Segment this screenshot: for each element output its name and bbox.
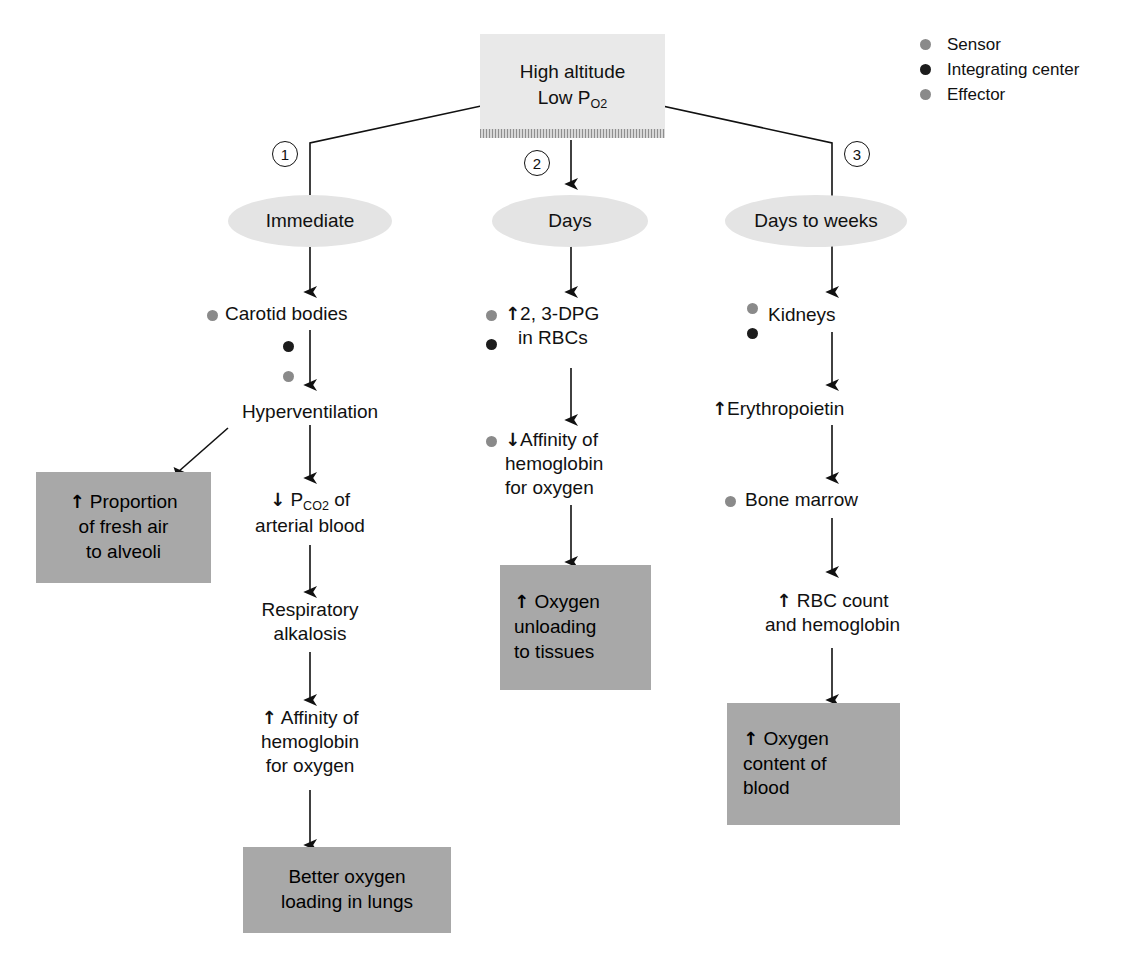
node-pco2-arterial-blood: ↓ PCO2 of arterial blood — [205, 488, 415, 538]
stimulus-po2-sub-o: O — [591, 97, 601, 111]
legend-label-sensor: Sensor — [947, 35, 1001, 55]
node-pco2-sub-2: 2 — [322, 499, 329, 513]
node-dpg-in-rbcs: ↑2, 3-DPG in RBCs — [505, 302, 665, 350]
node-dpg-text-1: 2, 3-DPG — [520, 303, 599, 324]
up-arrow-icon: ↑ — [712, 398, 727, 419]
outcome-unload-line-3: to tissues — [514, 640, 594, 665]
timing-label-days-to-weeks: Days to weeks — [754, 210, 878, 232]
up-arrow-icon: ↑ — [505, 303, 520, 324]
sensor-dot-carotid-icon — [207, 310, 218, 321]
node-erythropoietin: ↑Erythropoietin — [712, 397, 942, 421]
outcome-better-line-1: Better oxygen — [288, 865, 405, 890]
legend: Sensor Integrating center Effector — [920, 32, 1079, 107]
timing-oval-days: Days — [492, 195, 648, 247]
node-affinity-dn-line-1: ↓Affinity of — [505, 428, 670, 452]
stimulus-low-po2-prefix: Low P — [538, 87, 591, 108]
step-number-2-label: 2 — [533, 155, 541, 172]
down-arrow-icon: ↓ — [270, 489, 285, 510]
node-bone-marrow: Bone marrow — [745, 488, 945, 512]
node-label-erythropoietin: Erythropoietin — [727, 398, 844, 419]
node-pco2-sub-co: CO — [303, 499, 322, 513]
node-label-bone-marrow: Bone marrow — [745, 489, 858, 510]
outcome-unload-line-1: ↑ Oxygen — [514, 590, 600, 615]
step-number-3-label: 3 — [853, 146, 861, 163]
node-dpg-line-1: ↑2, 3-DPG — [505, 302, 665, 326]
step-number-3: 3 — [844, 141, 870, 167]
timing-label-days: Days — [548, 210, 591, 232]
outcome-proportion-line-2: of fresh air — [79, 515, 169, 540]
outcome-unload-line-2: unloading — [514, 615, 596, 640]
stimulus-line-2: Low PO2 — [538, 86, 608, 112]
node-pco2-line-1: ↓ PCO2 of — [205, 488, 415, 514]
stimulus-box: High altitude Low PO2 — [480, 34, 665, 138]
node-pco2-line-2: arterial blood — [205, 514, 415, 538]
node-rbc-count-hemoglobin: ↑ RBC count and hemoglobin — [715, 589, 950, 637]
outcome-content-line-1: ↑ Oxygen — [743, 727, 829, 752]
up-arrow-icon: ↑ — [514, 591, 529, 612]
legend-label-effector: Effector — [947, 85, 1005, 105]
outcome-proportion-line-3: to alveoli — [86, 540, 161, 565]
node-affinity-dn-line-2: hemoglobin — [505, 452, 670, 476]
up-arrow-icon: ↑ — [261, 707, 276, 728]
node-pco2-p: P — [290, 489, 303, 510]
outcome-unload-text-1: Oxygen — [534, 591, 599, 612]
node-affinity-hemoglobin-increase: ↑ Affinity of hemoglobin for oxygen — [205, 706, 415, 777]
outcome-content-line-3: blood — [743, 776, 790, 801]
outcome-content-text-1: Oxygen — [763, 728, 828, 749]
node-label-hyperventilation: Hyperventilation — [242, 401, 378, 422]
sensor-dot-dpg-icon — [486, 310, 497, 321]
node-pco2-of: of — [329, 489, 350, 510]
node-affinity-hemoglobin-decrease: ↓Affinity of hemoglobin for oxygen — [505, 428, 670, 499]
stimulus-hatch-border — [480, 129, 665, 138]
node-affinity-up-line-3: for oxygen — [205, 754, 415, 778]
up-arrow-icon: ↑ — [743, 728, 758, 749]
down-arrow-icon: ↓ — [505, 429, 520, 450]
node-affinity-dn-line-3: for oxygen — [505, 476, 670, 500]
node-respiratory-alkalosis: Respiratory alkalosis — [205, 598, 415, 646]
node-rbc-line-2: and hemoglobin — [715, 613, 950, 637]
outcome-better-line-2: loading in lungs — [281, 890, 413, 915]
step-number-2: 2 — [524, 150, 550, 176]
legend-item-sensor: Sensor — [920, 32, 1079, 57]
timing-label-immediate: Immediate — [266, 210, 355, 232]
diagram-canvas: Sensor Integrating center Effector High … — [0, 0, 1123, 969]
node-affinity-up-text-1: Affinity of — [281, 707, 359, 728]
outcome-box-better-oxygen-loading: Better oxygen loading in lungs — [243, 847, 451, 933]
node-hyperventilation: Hyperventilation — [195, 400, 425, 424]
outcome-box-oxygen-content-blood: ↑ Oxygen content of blood — [727, 703, 900, 825]
node-dpg-line-2: in RBCs — [505, 326, 665, 350]
sensor-dot-kidneys-icon — [747, 303, 758, 314]
effector-dot-affinity-icon — [486, 436, 497, 447]
sensor-dot-icon — [920, 39, 931, 50]
outcome-box-proportion-fresh-air: ↑ Proportion of fresh air to alveoli — [36, 472, 211, 583]
step-number-1-label: 1 — [281, 146, 289, 163]
node-affinity-up-line-2: hemoglobin — [205, 730, 415, 754]
outcome-content-line-2: content of — [743, 752, 826, 777]
node-rbc-text-1: RBC count — [797, 590, 889, 611]
legend-label-integrating-center: Integrating center — [947, 60, 1079, 80]
node-rbc-line-1: ↑ RBC count — [715, 589, 950, 613]
node-respiratory-line-1: Respiratory — [205, 598, 415, 622]
timing-oval-immediate: Immediate — [228, 195, 392, 247]
timing-oval-days-to-weeks: Days to weeks — [725, 195, 907, 247]
node-label-kidneys: Kidneys — [768, 304, 836, 325]
stimulus-line-1: High altitude — [520, 60, 626, 85]
outcome-proportion-line-1: ↑ Proportion — [69, 490, 177, 515]
node-affinity-up-line-1: ↑ Affinity of — [205, 706, 415, 730]
legend-item-effector: Effector — [920, 82, 1079, 107]
node-kidneys: Kidneys — [768, 303, 928, 327]
effector-dot-carotid-icon — [283, 371, 294, 382]
integrating-center-dot-dpg-icon — [486, 339, 497, 350]
node-carotid-bodies: Carotid bodies — [225, 302, 395, 326]
outcome-box-oxygen-unloading: ↑ Oxygen unloading to tissues — [500, 565, 651, 690]
integrating-center-dot-kidneys-icon — [747, 328, 758, 339]
up-arrow-icon: ↑ — [69, 491, 84, 512]
outcome-proportion-text-1: Proportion — [90, 491, 178, 512]
node-label-carotid-bodies: Carotid bodies — [225, 303, 348, 324]
up-arrow-icon: ↑ — [776, 590, 791, 611]
stimulus-po2-sub-2: 2 — [600, 97, 607, 111]
node-respiratory-line-2: alkalosis — [205, 622, 415, 646]
step-number-1: 1 — [272, 141, 298, 167]
integrating-center-dot-icon — [920, 64, 931, 75]
node-affinity-dn-text-1: Affinity of — [520, 429, 598, 450]
